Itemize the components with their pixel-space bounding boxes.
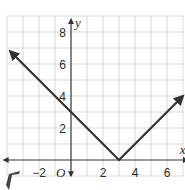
x-tick-label: 6 [164,166,171,180]
y-tick-label: 8 [59,26,66,40]
x-tick-label: −2 [32,166,46,180]
x-axis-label: x [179,142,185,157]
origin-label: O [56,165,66,180]
tick-labels: −22462468 [32,26,171,180]
grid-lines [7,16,183,176]
y-axis-label: y [73,15,81,30]
y-tick-label: 2 [59,122,66,136]
x-tick-label: 4 [132,166,139,180]
x-tick-label: 2 [100,166,107,180]
y-tick-label: 6 [59,58,66,72]
graph: xyO −22462468 [0,0,185,190]
corner-mark-icon [6,171,20,190]
axes: xyO [4,15,185,180]
